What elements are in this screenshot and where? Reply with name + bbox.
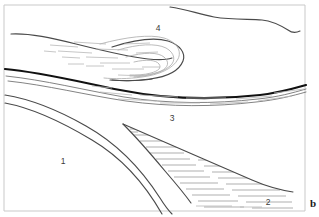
topographic-surface-line — [170, 7, 300, 32]
unit-label-4: 4 — [156, 23, 161, 33]
unit-label-2: 2 — [266, 197, 271, 207]
zone-4-fold-group — [11, 7, 300, 81]
zone-2-wedge-group — [123, 124, 294, 208]
geological-cross-section-figure: 1 2 3 4 b — [0, 0, 319, 217]
cross-section-drawing: 1 2 3 4 b — [0, 0, 319, 217]
zone-1-lower-boundary — [5, 103, 162, 214]
fold-upper-contact — [11, 34, 172, 60]
unit-label-1: 1 — [61, 156, 66, 166]
zone-3-lower-contact — [6, 76, 306, 103]
zone-3-inner-contact — [8, 81, 306, 106]
unit-label-3: 3 — [170, 113, 175, 123]
zone-3-layering-dashes — [92, 86, 304, 104]
edge-clipped-mark: b — [310, 197, 316, 209]
fold-layering-dashes — [44, 42, 160, 76]
zone-3-thin-layer-group — [6, 76, 306, 106]
zone-1-upper-boundary — [5, 95, 172, 214]
zone-1-group — [5, 95, 172, 214]
